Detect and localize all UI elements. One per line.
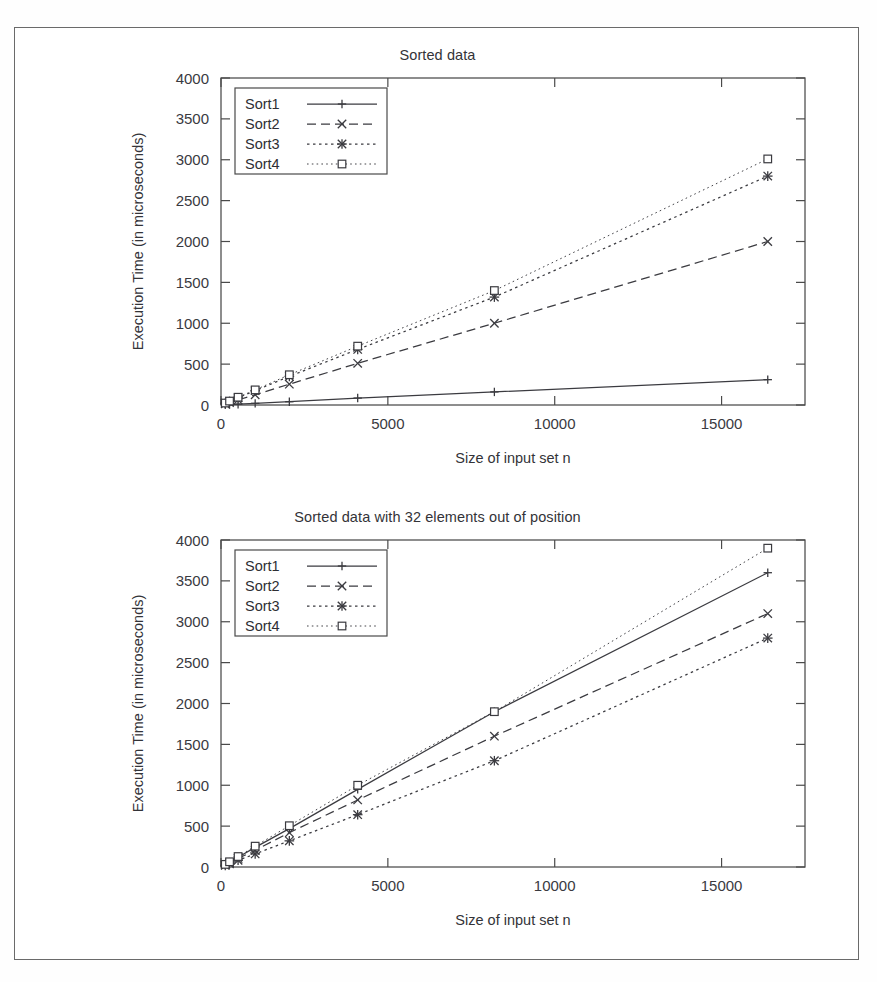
legend-label-sort4: Sort4 xyxy=(245,618,280,634)
y-tick-label: 1500 xyxy=(176,736,209,753)
series-sort2 xyxy=(221,609,772,869)
legend-label-sort3: Sort3 xyxy=(245,598,280,614)
y-tick-label: 500 xyxy=(184,818,209,835)
x-tick-label: 5000 xyxy=(371,877,404,894)
x-tick-label: 15000 xyxy=(701,877,743,894)
figure-sorted-data-out-of-position: Sorted data with 32 elements out of posi… xyxy=(15,495,860,957)
y-tick-label: 3000 xyxy=(176,151,209,168)
scanned-page: Sorted data 0500100015002000250030003500… xyxy=(0,0,877,982)
chart-legend: Sort1Sort2Sort3Sort4 xyxy=(235,88,387,174)
figure-sorted-data: Sorted data 0500100015002000250030003500… xyxy=(15,33,860,495)
series-sort4 xyxy=(221,155,771,407)
y-tick-label: 4000 xyxy=(176,532,209,549)
y-tick-label: 3500 xyxy=(176,110,209,127)
y-tick-label: 3500 xyxy=(176,572,209,589)
chart-svg: 0500100015002000250030003500400005000100… xyxy=(15,33,860,495)
y-tick-label: 2500 xyxy=(176,654,209,671)
x-axis-label: Size of input set n xyxy=(455,912,570,928)
y-tick-label: 2000 xyxy=(176,695,209,712)
x-axis-label: Size of input set n xyxy=(455,450,570,466)
y-tick-label: 500 xyxy=(184,356,209,373)
x-tick-label: 15000 xyxy=(701,415,743,432)
x-tick-label: 5000 xyxy=(371,415,404,432)
page-frame: Sorted data 0500100015002000250030003500… xyxy=(14,27,859,960)
y-tick-label: 1500 xyxy=(176,274,209,291)
series-sort2 xyxy=(221,237,772,408)
x-tick-label: 0 xyxy=(217,877,225,894)
plot-area-1: 0500100015002000250030003500400005000100… xyxy=(15,33,860,495)
y-tick-label: 1000 xyxy=(176,777,209,794)
legend-label-sort1: Sort1 xyxy=(245,96,280,112)
y-tick-label: 1000 xyxy=(176,315,209,332)
x-tick-label: 10000 xyxy=(534,415,576,432)
x-tick-label: 0 xyxy=(217,415,225,432)
series-sort3 xyxy=(220,633,772,870)
legend-label-sort3: Sort3 xyxy=(245,136,280,152)
legend-label-sort4: Sort4 xyxy=(245,156,280,172)
series-sort1 xyxy=(221,375,772,408)
y-axis-label: Execution Time (in microseconds) xyxy=(130,595,146,813)
plot-area-2: 0500100015002000250030003500400005000100… xyxy=(15,495,860,957)
legend-label-sort1: Sort1 xyxy=(245,558,280,574)
legend-label-sort2: Sort2 xyxy=(245,578,280,594)
y-tick-label: 4000 xyxy=(176,70,209,87)
y-tick-label: 3000 xyxy=(176,613,209,630)
y-tick-label: 2500 xyxy=(176,192,209,209)
y-tick-label: 0 xyxy=(201,397,209,414)
y-tick-label: 2000 xyxy=(176,233,209,250)
legend-label-sort2: Sort2 xyxy=(245,116,280,132)
y-axis-label: Execution Time (in microseconds) xyxy=(130,133,146,351)
cut-off-header-text xyxy=(28,0,828,7)
chart-svg: 0500100015002000250030003500400005000100… xyxy=(15,495,860,957)
x-tick-label: 10000 xyxy=(534,877,576,894)
chart-legend: Sort1Sort2Sort3Sort4 xyxy=(235,550,387,636)
y-tick-label: 0 xyxy=(201,859,209,876)
